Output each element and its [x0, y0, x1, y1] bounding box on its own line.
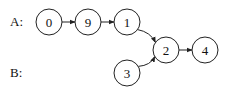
node-9: 9 [75, 9, 101, 35]
svg-text:9: 9 [85, 15, 92, 30]
node-2: 2 [153, 37, 179, 63]
svg-text:2: 2 [163, 43, 170, 58]
svg-text:3: 3 [124, 66, 131, 81]
linked-list-intersection-diagram: A: B: 0 9 1 2 4 3 [0, 0, 229, 97]
list-b-label: B: [10, 65, 22, 80]
node-4: 4 [192, 37, 218, 63]
node-0: 0 [36, 9, 62, 35]
list-a-label: A: [10, 14, 23, 29]
svg-text:1: 1 [124, 15, 131, 30]
edge-1-to-2 [138, 30, 156, 43]
node-1: 1 [114, 9, 140, 35]
edge-3-to-2 [138, 57, 155, 67]
svg-text:4: 4 [202, 43, 209, 58]
svg-text:0: 0 [46, 15, 53, 30]
node-3: 3 [114, 60, 140, 86]
